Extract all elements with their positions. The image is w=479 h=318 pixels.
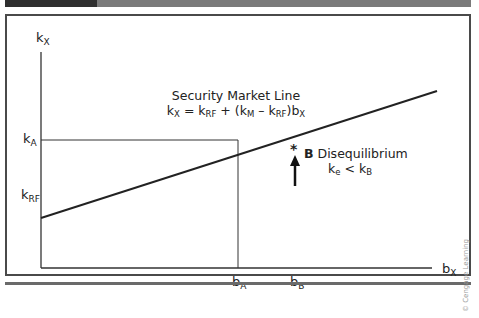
disequilibrium-text: Disequilibrium — [318, 146, 408, 161]
y-tick-krf: kRF — [21, 188, 40, 204]
x-axis-label: bX — [442, 262, 456, 278]
y-tick-ka: kA — [23, 132, 37, 148]
arrow-up-icon — [290, 155, 300, 186]
copyright-credit: © Cengage Learning — [462, 239, 470, 312]
sml-title-text: Security Market Line — [156, 88, 316, 103]
y-axis-label: kX — [36, 31, 50, 47]
bottom-rule — [5, 282, 471, 285]
point-b-marker: * — [290, 142, 297, 156]
point-b-label: B — [304, 146, 314, 161]
disequilibrium-condition: ke < kB — [304, 161, 408, 180]
sml-equation: kX = kRF + (kM – kRF)bX — [156, 103, 316, 122]
sml-title: Security Market Line kX = kRF + (kM – kR… — [156, 88, 316, 122]
disequilibrium-annotation: B Disequilibrium ke < kB — [304, 146, 408, 180]
